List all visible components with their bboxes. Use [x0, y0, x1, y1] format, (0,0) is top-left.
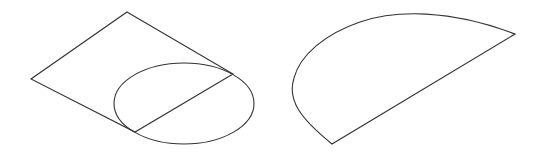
parallelogram: [31, 12, 233, 132]
left-figure: [31, 12, 254, 144]
right-figure: [292, 14, 515, 144]
half-ellipse: [292, 14, 515, 144]
diagram-canvas: [0, 0, 541, 152]
